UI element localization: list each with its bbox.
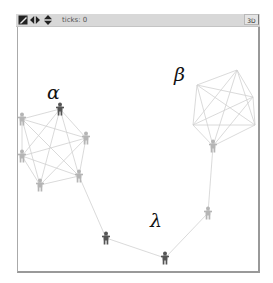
- link: [237, 70, 253, 97]
- link: [208, 146, 213, 213]
- link: [213, 125, 255, 146]
- link: [22, 109, 60, 156]
- cluster-label-lambda: λ: [149, 209, 162, 231]
- cluster-label-alpha: α: [47, 81, 60, 103]
- cluster-label-beta: β: [173, 63, 185, 85]
- link: [213, 70, 237, 146]
- link: [165, 213, 208, 258]
- person-node[interactable]: [75, 170, 83, 183]
- person-node[interactable]: [102, 232, 110, 245]
- person-node[interactable]: [204, 207, 212, 220]
- person-node[interactable]: [82, 132, 90, 145]
- network-graph: α β λ: [0, 0, 273, 283]
- link: [22, 109, 60, 119]
- link: [22, 156, 79, 176]
- person-node[interactable]: [161, 252, 169, 265]
- link: [22, 156, 40, 185]
- link: [193, 85, 197, 125]
- netlogo-view: ticks: 0 3D α β λ: [0, 0, 273, 283]
- link: [213, 97, 253, 146]
- link: [106, 238, 165, 258]
- link: [40, 176, 79, 185]
- link: [22, 138, 86, 156]
- link: [79, 176, 106, 238]
- link: [193, 97, 253, 125]
- person-node[interactable]: [56, 103, 64, 116]
